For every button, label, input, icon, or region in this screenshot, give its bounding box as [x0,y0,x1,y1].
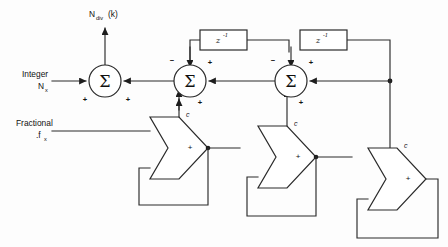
fractional-label: Fractional .f x [16,118,53,142]
adder-1: Σ [89,65,121,97]
comparator-2-plus: + [296,152,301,161]
integer-label-sub: x [45,87,48,93]
adder-3-sign-bottom: + [299,98,304,107]
adder-2: Σ [174,65,206,97]
right-feed-to-adder3-wire [310,40,392,150]
adder-1-symbol: Σ [99,72,110,91]
output-label-sym: N [89,9,95,19]
adder-1-sign-right: + [126,95,131,104]
adder-1-sign-left: + [83,95,88,104]
comparator-2-c-label: c [294,120,298,127]
adder-2-symbol: Σ [184,72,195,91]
output-label-paren: (k) [108,9,118,19]
comparator-1-plus: + [188,143,193,152]
integer-label-text: Integer [22,69,48,79]
integer-label-sym: N [38,81,44,91]
adder-2-sign-top-left: − [170,56,175,65]
integer-label: Integer N x [22,69,48,93]
comparator-3-c-label: c [404,142,408,149]
output-label-sub: div [96,15,103,21]
comparator-3 [357,148,438,238]
adder-3-sign-top-left: − [271,56,276,65]
adder-3-symbol: Σ [285,72,296,91]
adder-3: Σ [275,65,307,97]
delay-1-exponent: -1 [223,32,228,38]
delay-2-base: z [315,36,321,45]
adder-2-sign-top-right: + [208,58,213,67]
fractional-label-sym: .f [36,130,41,140]
comparator-3-plus: + [406,174,411,183]
adder-3-sign-top-right: + [309,58,314,67]
output-label: N div (k) [89,9,118,21]
adder-2-sign-bottom: + [198,98,203,107]
fractional-label-sub: x [44,136,47,142]
diagram-canvas: Σ Σ Σ + + − + + − + + z -1 z -1 [0,0,448,247]
fractional-label-text: Fractional [16,118,53,128]
comparator-1-c-label: c [186,111,190,118]
delay-2-exponent: -1 [323,32,328,38]
delay-1-base: z [215,36,221,45]
